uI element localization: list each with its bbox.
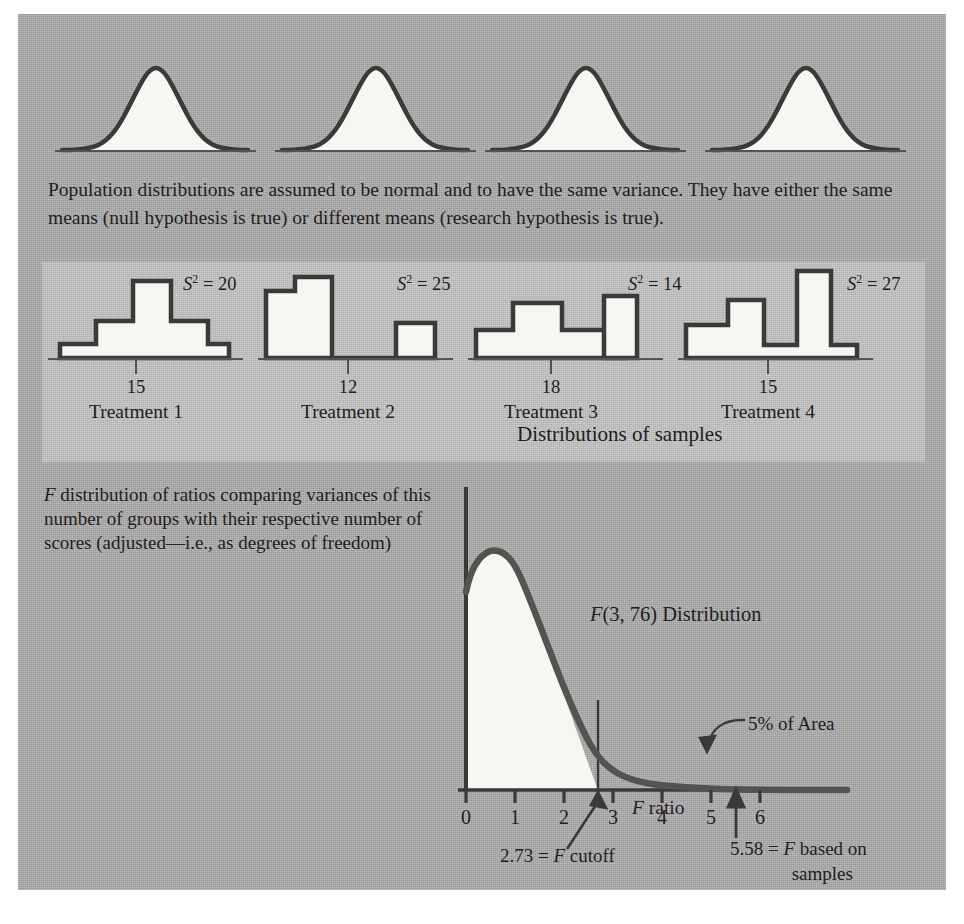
figure-root: Population distributions are assumed to … [0, 0, 964, 924]
sample-f-symbol: F [783, 838, 795, 859]
sample-value-text: 5.58 = [730, 838, 783, 859]
f-sample-label: 5.58 = F based on samples [730, 836, 867, 886]
f-axis-label-6: 6 [740, 806, 780, 829]
f-sample-label-line2: samples [730, 861, 867, 886]
cutoff-f-symbol: F [553, 845, 565, 866]
f-cutoff-label: 2.73 = F cutoff [500, 845, 615, 867]
f-sample-label-line1: 5.58 = F based on [730, 836, 867, 861]
cutoff-value-text: 2.73 = [500, 845, 553, 866]
f-axis-label-4: 4 [642, 806, 682, 829]
f-axis-label-5: 5 [691, 806, 731, 829]
sample-words: based on [795, 838, 867, 859]
f-distribution-title: F(3, 76) Distribution [590, 603, 761, 626]
f-axis-label-1: 1 [495, 806, 535, 829]
cutoff-word: cutoff [565, 845, 615, 866]
f-curve-shaded-area [466, 551, 598, 790]
f-axis-label-2: 2 [544, 806, 584, 829]
area-callout-arrow [700, 720, 745, 752]
f-distribution-chart [0, 0, 964, 924]
f-title-rest: (3, 76) Distribution [603, 603, 762, 625]
area-percentage-label: 5% of Area [748, 713, 835, 735]
f-axis-label-0: 0 [446, 806, 486, 829]
f-title-symbol: F [590, 603, 603, 625]
f-axis-label-3: 3 [593, 806, 633, 829]
